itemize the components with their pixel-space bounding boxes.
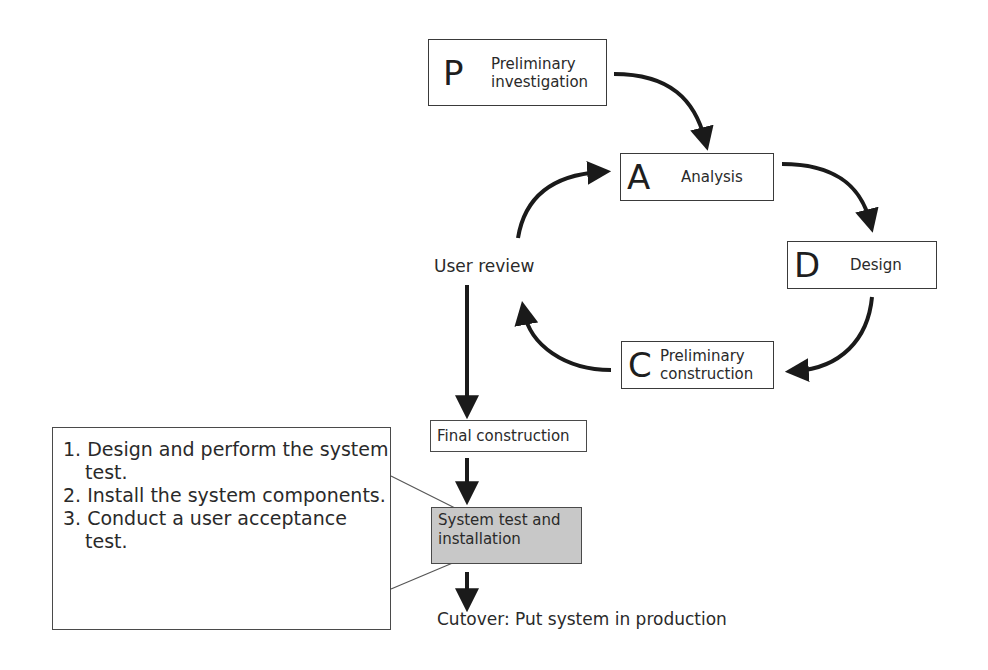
callout-task-text: Install the system components. (87, 484, 386, 506)
phase-box-design: D Design (787, 241, 937, 289)
callout-task-list: 1. Design and perform the system test. 2… (53, 438, 390, 553)
arrow-d-to-c (796, 297, 872, 371)
callout-leader-top (391, 476, 455, 508)
step-final-construction: Final construction (430, 420, 587, 452)
callout-leader-bottom (391, 562, 455, 589)
callout-task-item: 3. Conduct a user acceptance test. (53, 507, 390, 553)
phase-box-preliminary-construction: C Preliminary construction (621, 341, 774, 389)
phase-label-design: Design (850, 256, 902, 274)
callout-system-test-tasks: 1. Design and perform the system test. 2… (52, 427, 391, 630)
phase-box-preliminary-investigation: P Preliminary investigation (428, 39, 607, 106)
phase-label-preliminary-investigation: Preliminary investigation (491, 55, 601, 91)
arrow-a-to-d (782, 164, 870, 222)
callout-task-number: 2. (63, 484, 81, 506)
arrow-p-to-a (614, 74, 705, 140)
callout-task-number: 3. (63, 507, 81, 529)
phase-label-analysis: Analysis (681, 168, 743, 186)
phase-label-preliminary-construction: Preliminary construction (660, 347, 770, 383)
callout-task-number: 1. (63, 438, 81, 460)
phase-letter-a: A (627, 160, 661, 194)
arrow-c-to-user-review (524, 312, 611, 370)
arrow-user-review-to-a (518, 172, 600, 238)
callout-task-text: Conduct a user acceptance test. (85, 507, 347, 552)
phase-letter-c: C (628, 348, 656, 382)
phase-letter-d: D (794, 248, 828, 282)
callout-task-item: 2. Install the system components. (53, 484, 390, 507)
phase-box-analysis: A Analysis (620, 153, 774, 201)
phase-letter-p: P (443, 56, 477, 90)
user-review-label: User review (434, 256, 534, 276)
callout-task-item: 1. Design and perform the system test. (53, 438, 390, 484)
diagram-canvas: P Preliminary investigation A Analysis D… (0, 0, 988, 670)
callout-task-text: Design and perform the system test. (85, 438, 388, 483)
cutover-label: Cutover: Put system in production (437, 609, 727, 629)
step-system-test-installation: System test and installation (431, 507, 582, 564)
